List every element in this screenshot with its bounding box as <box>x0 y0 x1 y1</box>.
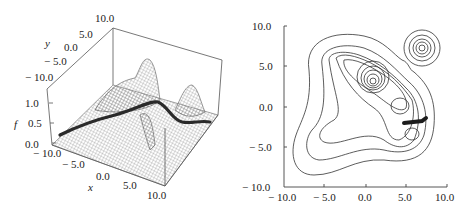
y-tick-label: 0.0 <box>64 42 78 53</box>
y-tick-label: − 5.0 <box>44 56 67 67</box>
x-tick-label: − 10.0 <box>268 192 296 203</box>
z-tick-label: 0.5 <box>28 118 42 129</box>
y-tick-label: − 5.0 <box>249 142 272 153</box>
y-tick-label: 0.0 <box>259 102 273 113</box>
y-tick-label: 10.0 <box>252 21 271 32</box>
contour-plot-panel: 10.0 5.0 0.0 − 5.0 − 10.0 − 10.0 − 5.0 0… <box>234 0 468 215</box>
surface-plot-panel: 10.0 5.0 0.0 − 5.0 − 10.0 y 1.0 0.5 0.0 … <box>0 0 234 215</box>
x-tick-label: 0.0 <box>96 171 110 182</box>
y-axis-label: y <box>45 38 50 49</box>
y-tick-label: 5.0 <box>79 29 93 40</box>
trajectory-segment <box>404 118 426 123</box>
x-tick-label: − 5.0 <box>313 192 336 203</box>
axes <box>284 26 447 187</box>
x-axis-label: x <box>88 182 93 193</box>
x-tick-label: 5.0 <box>123 180 137 191</box>
x-tick-label: − 10.0 <box>33 148 61 159</box>
x-tick-label: 5.0 <box>398 192 412 203</box>
z-axis-label: f <box>14 119 17 130</box>
y-tick-label: − 10.0 <box>25 72 53 83</box>
x-tick-label: − 5.0 <box>62 159 85 170</box>
contour-lines <box>293 30 440 175</box>
x-tick-label: 10.0 <box>147 190 166 201</box>
x-tick-label: 10.0 <box>435 192 454 203</box>
y-tick-label: − 10.0 <box>242 182 270 193</box>
z-tick-label: 1.0 <box>25 98 39 109</box>
y-tick-label: 10.0 <box>95 13 114 24</box>
x-tick-label: 0.0 <box>358 192 372 203</box>
y-tick-label: 5.0 <box>259 61 273 72</box>
